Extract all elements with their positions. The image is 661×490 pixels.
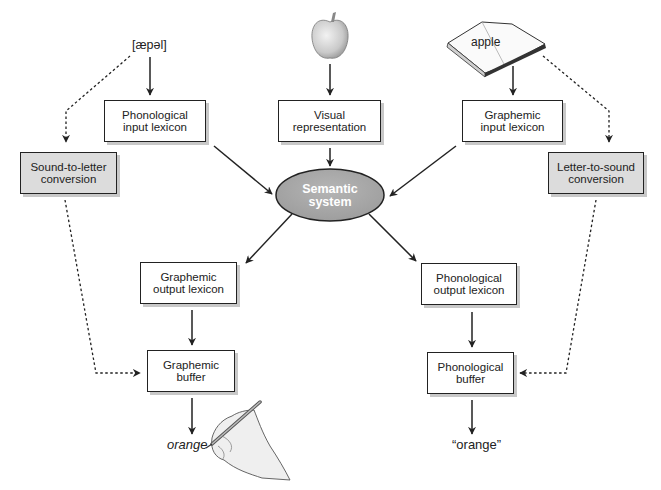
- edge-lts-pbuf: [520, 200, 596, 373]
- edge-gil-semantic: [390, 146, 456, 196]
- phonological-buffer-box: Phonologicalbuffer: [427, 352, 514, 394]
- box-line: Phonological: [438, 361, 504, 373]
- box-line: conversion: [557, 173, 635, 185]
- box-line: buffer: [163, 371, 219, 383]
- box-line: buffer: [438, 373, 504, 385]
- edge-semantic-pol: [369, 214, 416, 261]
- letter-to-sound-conversion-box: Letter-to-soundconversion: [548, 152, 644, 194]
- hand-writing-icon: [206, 402, 290, 480]
- box-line: Graphemic: [481, 109, 545, 121]
- diagram-canvas: [0, 0, 661, 490]
- visual-representation-box: Visualrepresentation: [278, 100, 381, 142]
- box-line: Graphemic: [163, 359, 219, 371]
- auditory-input-label: [æpəl]: [132, 38, 167, 52]
- phonological-input-lexicon-box: Phonologicalinput lexicon: [104, 100, 206, 142]
- box-line: Visual: [293, 109, 367, 121]
- graphemic-buffer-box: Graphemicbuffer: [147, 350, 235, 392]
- box-line: system: [277, 196, 383, 209]
- spoken-output-label: “orange”: [452, 437, 501, 452]
- box-line: input lexicon: [481, 121, 545, 133]
- edge-pil-semantic: [214, 146, 272, 194]
- box-line: Graphemic: [153, 271, 224, 283]
- edge-semantic-gol: [246, 214, 292, 263]
- box-line: Phonological: [122, 109, 188, 121]
- book-icon: [447, 22, 546, 77]
- box-line: Sound-to-letter: [30, 161, 106, 173]
- box-line: output lexicon: [434, 284, 505, 296]
- box-line: Letter-to-sound: [557, 161, 635, 173]
- box-line: representation: [293, 121, 367, 133]
- written-output-label: orange: [167, 437, 207, 452]
- sound-to-letter-conversion-box: Sound-to-letterconversion: [20, 152, 117, 194]
- graphemic-input-lexicon-box: Graphemicinput lexicon: [462, 100, 563, 142]
- graphemic-output-lexicon-box: Graphemicoutput lexicon: [140, 262, 237, 304]
- box-line: output lexicon: [153, 283, 224, 295]
- semantic-system-label: Semantic system: [277, 183, 383, 209]
- apple-icon: [312, 12, 348, 58]
- phonological-output-lexicon-box: Phonologicaloutput lexicon: [421, 263, 517, 305]
- box-line: input lexicon: [122, 121, 188, 133]
- box-line: Phonological: [434, 272, 505, 284]
- edge-stl-gbuf: [65, 200, 140, 373]
- box-line: conversion: [30, 173, 106, 185]
- book-word-label: apple: [471, 35, 500, 49]
